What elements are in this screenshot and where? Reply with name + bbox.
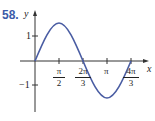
y-axis-arrow-icon [33, 10, 37, 16]
x-axis-label: x [147, 64, 151, 74]
y-tick-label-1: 1 [26, 31, 31, 41]
x-tick-label-2pi-3: 2π 3 [75, 67, 91, 88]
x-tick-label-4pi-3: 4π 3 [123, 67, 139, 88]
x-tick-label-pi-2: π 2 [53, 67, 65, 88]
y-tick-label-neg1: −1 [19, 80, 30, 90]
x-tick-label-pi: π [104, 67, 109, 76]
y-axis-label: y [24, 9, 28, 19]
